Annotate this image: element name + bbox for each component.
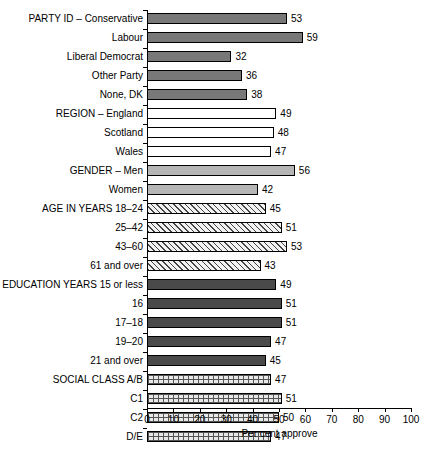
- x-axis-tick: [147, 408, 148, 412]
- bar: [147, 355, 266, 366]
- bar-row: REGION – England49: [147, 105, 411, 124]
- bar-row: C151: [147, 390, 411, 409]
- bar-value-label: 45: [270, 353, 281, 368]
- bar: [147, 32, 303, 43]
- bar: [147, 298, 282, 309]
- bar-value-label: 45: [270, 201, 281, 216]
- x-axis-tick: [385, 408, 386, 412]
- bar-row: Labour59: [147, 29, 411, 48]
- bar-category-label: Labour: [112, 29, 143, 46]
- bar-row: PARTY ID – Conservative53: [147, 10, 411, 29]
- bar-row: 1651: [147, 295, 411, 314]
- bar: [147, 184, 258, 195]
- bar-value-label: 47: [275, 372, 286, 387]
- bar-row: Liberal Democrat32: [147, 48, 411, 67]
- bar-value-label: 32: [235, 49, 246, 64]
- bar-row: GENDER – Men56: [147, 162, 411, 181]
- bar-value-label: 59: [307, 30, 318, 45]
- bar: [147, 336, 271, 347]
- bar-value-label: 51: [286, 315, 297, 330]
- bar: [147, 317, 282, 328]
- bar-row: Other Party36: [147, 67, 411, 86]
- bar: [147, 222, 282, 233]
- bar-row: 25–4251: [147, 219, 411, 238]
- bar-row: 19–2047: [147, 333, 411, 352]
- bar-category-label: 17–18: [115, 314, 143, 331]
- bar-category-label: 43–60: [115, 238, 143, 255]
- bar-row: 17–1851: [147, 314, 411, 333]
- plot-area: PARTY ID – Conservative53Labour59Liberal…: [147, 10, 411, 406]
- bar-row: 21 and over45: [147, 352, 411, 371]
- x-axis-tick-label: 100: [396, 413, 426, 426]
- bar-row: 43–6053: [147, 238, 411, 257]
- bar-value-label: 51: [286, 296, 297, 311]
- bar-category-label: Other Party: [92, 67, 143, 84]
- bar: [147, 241, 287, 252]
- bar-value-label: 51: [286, 220, 297, 235]
- bar-category-label: None, DK: [100, 86, 143, 103]
- bar-chart: PARTY ID – Conservative53Labour59Liberal…: [0, 0, 436, 456]
- bar: [147, 260, 261, 271]
- x-axis-tick: [253, 408, 254, 412]
- bar-category-label: Scotland: [104, 124, 143, 141]
- bar-row: Women42: [147, 181, 411, 200]
- bar-category-label: GENDER – Men: [70, 162, 143, 179]
- bar-value-label: 43: [265, 258, 276, 273]
- bar-category-label: AGE IN YEARS 18–24: [42, 200, 143, 217]
- x-axis-tick: [200, 408, 201, 412]
- x-axis-tick: [279, 408, 280, 412]
- bar: [147, 165, 295, 176]
- figure-caption: [8, 447, 428, 456]
- x-axis-tick: [173, 408, 174, 412]
- bar-category-label: Liberal Democrat: [67, 48, 143, 65]
- bar-value-label: 38: [251, 87, 262, 102]
- bar-value-label: 49: [280, 277, 291, 292]
- bar-value-label: 47: [275, 144, 286, 159]
- bar: [147, 203, 266, 214]
- bar-category-label: 25–42: [115, 219, 143, 236]
- bar: [147, 146, 271, 157]
- bar-value-label: 53: [291, 11, 302, 26]
- bar-value-label: 47: [275, 334, 286, 349]
- bar: [147, 279, 276, 290]
- x-axis-tick: [411, 408, 412, 412]
- bar-value-label: 56: [299, 163, 310, 178]
- x-axis-title: Per cent approve: [147, 428, 412, 439]
- bar-row: Scotland48: [147, 124, 411, 143]
- bar: [147, 127, 274, 138]
- bar-value-label: 36: [246, 68, 257, 83]
- bar-row: EDUCATION YEARS 15 or less49: [147, 276, 411, 295]
- x-axis-tick: [226, 408, 227, 412]
- x-axis-tick: [358, 408, 359, 412]
- bar-value-label: 49: [280, 106, 291, 121]
- bar-category-label: EDUCATION YEARS 15 or less: [2, 276, 143, 293]
- bar: [147, 89, 247, 100]
- bar-category-label: D/E: [126, 428, 143, 445]
- bar-value-label: 51: [286, 391, 297, 406]
- bar-category-label: Wales: [116, 143, 143, 160]
- bar-category-label: SOCIAL CLASS A/B: [53, 371, 143, 388]
- bar: [147, 70, 242, 81]
- bar-category-label: Women: [109, 181, 143, 198]
- bar: [147, 51, 231, 62]
- bar-category-label: 16: [132, 295, 143, 312]
- bar-category-label: 19–20: [115, 333, 143, 350]
- bar-value-label: 48: [278, 125, 289, 140]
- bar-category-label: 61 and over: [90, 257, 143, 274]
- x-axis-tick: [305, 408, 306, 412]
- bar-row: SOCIAL CLASS A/B47: [147, 371, 411, 390]
- y-axis-line: [147, 10, 148, 408]
- bar-category-label: PARTY ID – Conservative: [29, 10, 144, 27]
- bar-category-label: C1: [130, 390, 143, 407]
- bar-value-label: 42: [262, 182, 273, 197]
- bar-row: None, DK38: [147, 86, 411, 105]
- bar: [147, 13, 287, 24]
- bar-category-label: 21 and over: [90, 352, 143, 369]
- bar-row: 61 and over43: [147, 257, 411, 276]
- bar-category-label: REGION – England: [56, 105, 143, 122]
- bar: [147, 374, 271, 385]
- bar-row: AGE IN YEARS 18–2445: [147, 200, 411, 219]
- bar: [147, 108, 276, 119]
- bar-value-label: 53: [291, 239, 302, 254]
- x-axis-tick: [332, 408, 333, 412]
